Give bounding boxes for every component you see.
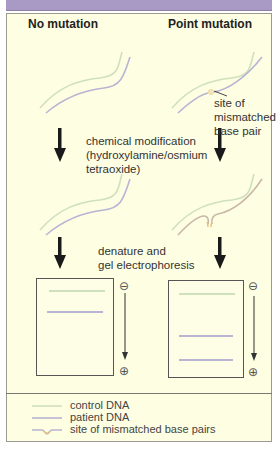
positive-electrode-icon: ⊕ <box>119 365 129 377</box>
down-arrow-left-2 <box>54 237 66 269</box>
migration-arrow-left <box>122 293 128 360</box>
gel-band-patient <box>47 311 103 313</box>
gel-band-patient-fragment <box>179 335 233 337</box>
dna-duplex-no-mutation-initial <box>40 52 130 113</box>
patient-dna-strand <box>46 179 130 235</box>
mismatch-cleavage-left <box>207 222 208 227</box>
mismatch-cleavage-right <box>211 222 212 227</box>
chemical-modification-label: chemical modification (hydroxylamine/osm… <box>86 134 207 176</box>
electrophoresis-label: denature and gel electrophoresis <box>98 244 195 272</box>
gel-no-mutation <box>36 278 114 376</box>
legend-label-mismatch: site of mismatched base pairs <box>70 423 216 436</box>
control-dna-strand <box>40 52 122 108</box>
control-dna-strand <box>40 174 122 230</box>
gel-band-control <box>49 290 105 292</box>
gel-point-mutation <box>168 280 244 378</box>
dna-duplex-point-mutation-modified <box>172 174 262 235</box>
patient-dna-strand <box>46 57 130 113</box>
down-arrow-right-2 <box>214 237 226 269</box>
down-arrow-left-1 <box>54 128 66 162</box>
migration-arrow-right <box>251 296 257 361</box>
negative-electrode-icon: ⊖ <box>248 280 258 292</box>
diagram-graphics <box>0 0 278 450</box>
gel-band-control <box>179 293 235 295</box>
mismatch-site-marker <box>208 89 213 94</box>
dna-duplex-no-mutation-modified <box>40 174 130 235</box>
positive-electrode-icon: ⊕ <box>248 366 258 378</box>
mismatch-site-label: site of mismatched base pair <box>214 96 276 138</box>
negative-electrode-icon: ⊖ <box>119 280 129 292</box>
gel-band-patient-fragment <box>179 359 233 361</box>
